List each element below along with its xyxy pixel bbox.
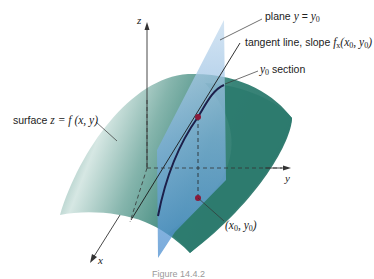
tangent-line-label: tangent line, slope fx(x0, y0) <box>245 37 372 50</box>
plane-label: plane y = y0 <box>265 11 320 24</box>
y0-section-label: y0 section <box>260 64 305 77</box>
x-axis-label: x <box>98 254 103 266</box>
point-label: (x0, y0) <box>225 220 257 233</box>
x-axis-arrow <box>90 254 97 263</box>
y-axis-label: y <box>285 172 290 184</box>
surface-label: surface z = f (x, y) <box>13 115 98 127</box>
point-on-surface <box>195 114 201 120</box>
z-axis-arrow <box>145 22 150 30</box>
x-axis <box>93 215 120 258</box>
y-axis-arrow <box>283 166 291 171</box>
z-axis-label: z <box>137 14 141 26</box>
figure-caption: Figure 14.4.2 <box>152 270 205 279</box>
